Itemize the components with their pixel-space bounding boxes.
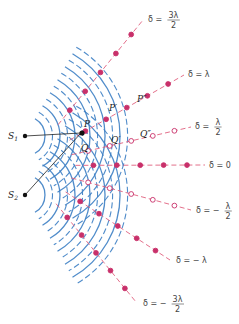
constructive-point-d_m3-1 xyxy=(79,233,84,238)
crest-arc-s2-4 xyxy=(50,152,75,239)
delta-label-d_p2: δ = λ xyxy=(188,70,210,79)
svg-text:δ = −: δ = − xyxy=(196,206,219,215)
crest-arc-s1-4 xyxy=(50,93,75,180)
destructive-point-d_p1-3 xyxy=(150,134,155,139)
constructive-point-d_p3-4 xyxy=(129,32,134,37)
svg-text:2: 2 xyxy=(171,21,176,30)
point-labels: P P′ P″ Q Q′ Q″ xyxy=(81,94,151,153)
constructive-point-d_p3-1 xyxy=(83,89,88,94)
svg-text:δ = − λ: δ = − λ xyxy=(176,256,207,265)
label-q-double-prime: Q″ xyxy=(140,129,151,139)
constructive-point-d_p2-1 xyxy=(104,117,109,122)
constructive-point-d_m3-2 xyxy=(94,251,99,256)
constructive-point-d_0-3 xyxy=(161,163,166,168)
label-p-double-prime: P″ xyxy=(136,94,147,104)
constructive-point-d_m3-3 xyxy=(108,268,113,273)
svg-text:δ = λ: δ = λ xyxy=(188,70,210,79)
svg-text:δ = −: δ = − xyxy=(143,299,166,308)
svg-text:2: 2 xyxy=(175,305,180,314)
source-s1-dot xyxy=(23,134,27,138)
constructive-point-d_m3-0 xyxy=(65,215,70,220)
constructive-point-d_p3-2 xyxy=(98,70,103,75)
constructive-point-d_0-0 xyxy=(91,163,96,168)
delta-label-d_p1: δ = λ2 xyxy=(195,118,222,137)
constructive-point-d_p3-0 xyxy=(67,108,72,113)
source-s2-dot xyxy=(23,193,27,197)
destructive-point-d_m1-1 xyxy=(107,186,112,191)
constructive-point-d_0-2 xyxy=(138,163,143,168)
delta-label-d_p3: δ = 3λ2 xyxy=(148,11,180,30)
source-s2-label: S2 xyxy=(8,190,18,201)
constructive-point-d_p2-4 xyxy=(166,82,171,87)
label-q-prime: Q′ xyxy=(111,135,120,145)
destructive-point-d_m1-4 xyxy=(172,203,177,208)
constructive-point-d_m3-4 xyxy=(123,286,128,291)
delta-label-d_m3: δ = − 3λ2 xyxy=(143,295,184,314)
label-p-prime: P′ xyxy=(108,103,117,113)
svg-text:δ =: δ = xyxy=(148,15,162,24)
svg-text:3λ: 3λ xyxy=(168,11,178,20)
constructive-point-d_m2-4 xyxy=(153,248,158,253)
interference-figure: S1 S2 P P′ P″ Q Q′ Q″ δ = 3λ2δ = λδ = λ2… xyxy=(0,0,239,324)
svg-text:3λ: 3λ xyxy=(173,295,183,304)
svg-text:2: 2 xyxy=(226,212,231,221)
destructive-point-d_m1-0 xyxy=(86,180,91,185)
delta-label-d_m2: δ = − λ xyxy=(176,256,207,265)
svg-text:λ: λ xyxy=(215,118,220,127)
constructive-point-d_m2-0 xyxy=(78,199,83,204)
constructive-point-d_0-4 xyxy=(185,163,190,168)
source-s1-label: S1 xyxy=(8,131,18,142)
destructive-point-d_m1-3 xyxy=(150,197,155,202)
destructive-point-d_p1-2 xyxy=(129,139,134,144)
crest-arc-s2-0 xyxy=(35,178,45,213)
svg-text:2: 2 xyxy=(215,128,220,137)
destructive-point-d_m1-2 xyxy=(129,192,134,197)
s2-to-p-line xyxy=(25,133,81,195)
label-q: Q xyxy=(81,143,89,153)
delta-label-d_0: δ = 0 xyxy=(209,161,231,170)
constructive-point-d_m2-1 xyxy=(97,211,102,216)
destructive-point-d_p1-4 xyxy=(172,128,177,133)
wavefronts xyxy=(35,47,128,284)
interference-diagram: S1 S2 P P′ P″ Q Q′ Q″ δ = 3λ2δ = λδ = λ2… xyxy=(0,0,239,324)
point-p-dot xyxy=(79,130,84,135)
svg-text:δ =: δ = xyxy=(195,122,209,131)
constructive-point-d_0-1 xyxy=(114,163,119,168)
crest-arc-s1-0 xyxy=(35,119,45,154)
constructive-point-d_m2-2 xyxy=(115,224,120,229)
delta-label-d_m1: δ = − λ2 xyxy=(196,202,232,221)
constructive-point-d_p3-3 xyxy=(114,51,119,56)
svg-text:δ = 0: δ = 0 xyxy=(209,161,231,170)
constructive-point-d_p2-2 xyxy=(124,105,129,110)
svg-text:λ: λ xyxy=(226,202,231,211)
constructive-point-d_m2-3 xyxy=(134,236,139,241)
label-p: P xyxy=(83,119,91,129)
